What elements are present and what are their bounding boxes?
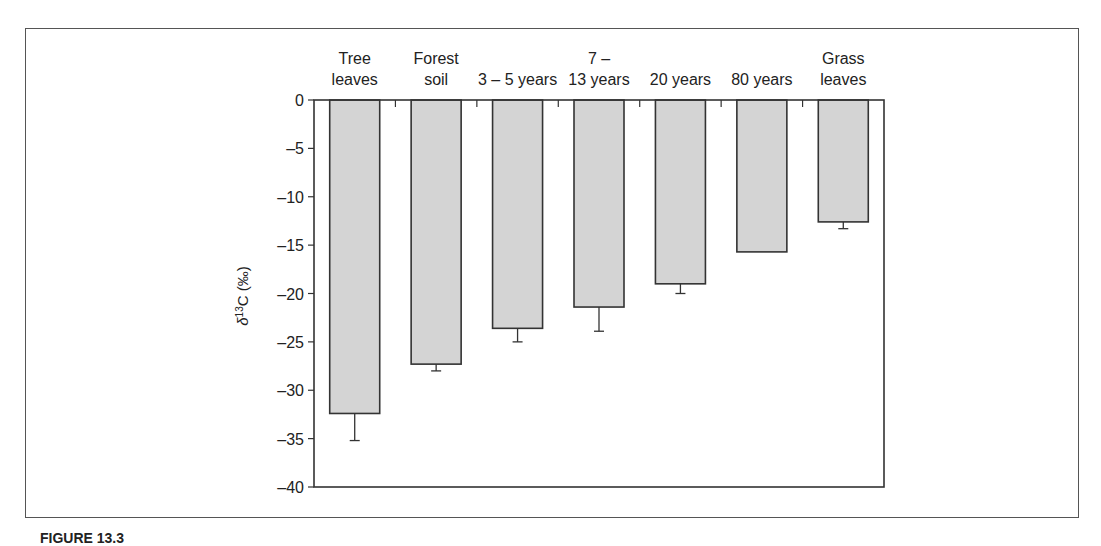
y-axis-label: δ13C (‰) <box>234 266 252 325</box>
y-tick-label: –25 <box>277 334 304 351</box>
y-tick-label: –40 <box>277 479 304 496</box>
category-label: 7 – <box>588 50 610 67</box>
bar-1 <box>411 100 461 371</box>
figure-caption: FIGURE 13.3 <box>40 530 124 546</box>
y-tick-label: –35 <box>277 431 304 448</box>
bar-3 <box>574 100 624 331</box>
category-label: Forest <box>413 50 459 67</box>
category-label: Grass <box>822 50 865 67</box>
bar-6 <box>818 100 868 229</box>
y-tick-label: 0 <box>295 92 304 109</box>
bars <box>330 100 869 441</box>
category-label: Tree <box>339 50 371 67</box>
category-label: soil <box>424 71 448 88</box>
category-label: leaves <box>820 71 866 88</box>
category-label: 13 years <box>568 71 629 88</box>
category-label: 20 years <box>650 71 711 88</box>
category-label: 80 years <box>731 71 792 88</box>
category-label: 3 – 5 years <box>478 71 557 88</box>
y-tick-label: –20 <box>277 286 304 303</box>
bar-4 <box>655 100 705 294</box>
category-label: leaves <box>332 71 378 88</box>
y-tick-label: –30 <box>277 382 304 399</box>
y-tick-label: –10 <box>277 189 304 206</box>
y-tick-label: –15 <box>277 237 304 254</box>
bar-5 <box>737 100 787 252</box>
y-tick-label: –5 <box>286 140 304 157</box>
bar-2 <box>493 100 543 342</box>
bar-0 <box>330 100 380 441</box>
